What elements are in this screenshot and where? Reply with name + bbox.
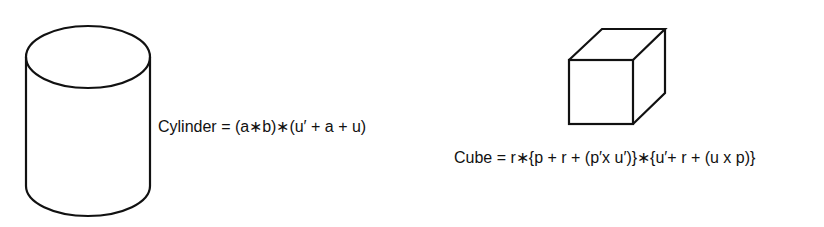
cylinder-bottom-arc [26, 186, 150, 216]
cylinder-formula: Cylinder = (a∗b)∗(u′ + a + u) [158, 117, 366, 136]
cube-front-face [569, 60, 633, 124]
diagram-canvas [0, 0, 824, 227]
cylinder-top-ellipse [26, 26, 150, 88]
cylinder-shape [26, 26, 150, 216]
cube-shape [569, 29, 665, 124]
cube-formula: Cube = r∗{p + r + (p′x u′)}∗{u′+ r + (u … [454, 148, 755, 167]
cube-top-face [569, 29, 665, 60]
